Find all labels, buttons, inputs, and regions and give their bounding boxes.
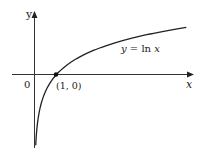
ln-graph: y x 0 (1, 0) y = ln x	[0, 0, 207, 157]
x-axis-arrow-icon	[187, 72, 194, 78]
y-axis-arrow-icon	[32, 11, 38, 18]
y-axis-label: y	[25, 8, 33, 21]
origin-label: 0	[24, 79, 30, 90]
point-label: (1, 0)	[56, 80, 82, 91]
curve-label-lhs: y =	[120, 43, 141, 54]
curve-label-x: x	[154, 43, 160, 54]
curve-label-ln: ln	[141, 43, 154, 54]
point-1-0	[54, 72, 59, 77]
curve-label: y = ln x	[120, 43, 160, 54]
x-axis-label: x	[186, 78, 193, 91]
